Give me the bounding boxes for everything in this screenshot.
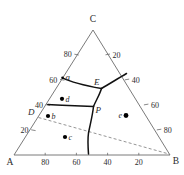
node-marker-a [61, 77, 64, 80]
tick-label-bottom-60: 60 [72, 158, 80, 167]
tick-right-20 [106, 54, 111, 55]
tick-label-left-20: 20 [21, 126, 29, 135]
tick-right-80 [157, 129, 162, 130]
tick-label-bottom-20: 20 [135, 158, 143, 167]
ternary-diagram-canvas: A B C 20 40 60 80 20 40 60 80 80 60 40 2… [0, 0, 184, 175]
point-label-c: c [69, 133, 73, 142]
tick-right-40 [125, 79, 130, 80]
tick-label-right-20: 20 [113, 51, 121, 60]
tick-left-60 [60, 79, 64, 80]
point-label-d: d [66, 95, 71, 104]
tick-label-right-60: 60 [151, 101, 159, 110]
tick-label-left-80: 80 [64, 50, 72, 59]
boundary-curve-E-to-right-edge [102, 74, 127, 89]
node-label-P: P [95, 105, 102, 115]
boundary-curve-P-to-bottom-axis [88, 107, 94, 155]
axis-left-AC-line [14, 30, 93, 155]
boundary-curve-P-to-left-edge [48, 105, 94, 107]
tie-line-D-to-B [39, 118, 170, 155]
composition-dot-c [63, 135, 67, 139]
vertex-label-A: A [7, 157, 14, 167]
tick-label-left-60: 60 [49, 76, 57, 85]
vertex-label-C: C [90, 14, 96, 24]
composition-dot-b [46, 114, 50, 118]
node-label-D: D [27, 107, 35, 117]
ternary-diagram-figure: A B C 20 40 60 80 20 40 60 80 80 60 40 2… [0, 0, 184, 175]
tick-label-bottom-80: 80 [41, 158, 49, 167]
axis-right-ticks [106, 54, 162, 130]
tick-label-bottom-40: 40 [104, 158, 112, 167]
composition-dot-d [60, 97, 64, 101]
node-label-a: a [66, 72, 71, 82]
tick-left-20 [31, 130, 35, 131]
point-label-e: e [118, 111, 122, 120]
tick-right-60 [144, 104, 149, 105]
tick-label-left-40: 40 [35, 101, 43, 110]
tick-label-right-40: 40 [132, 76, 140, 85]
vertex-label-B: B [173, 156, 179, 166]
triangle-axes [14, 30, 170, 155]
node-label-E: E [93, 77, 100, 87]
point-label-b: b [52, 112, 56, 121]
composition-dot-e [124, 113, 129, 118]
tick-label-right-80: 80 [164, 126, 172, 135]
